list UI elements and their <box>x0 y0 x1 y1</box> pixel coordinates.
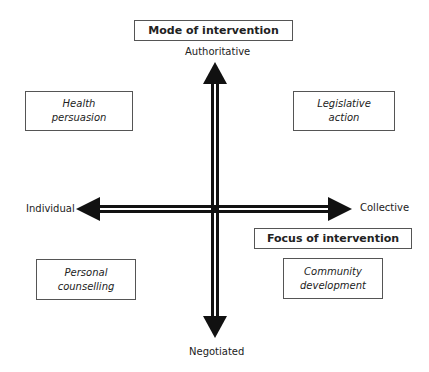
mode-title-text: Mode of intervention <box>148 24 278 37</box>
mode-of-intervention-title: Mode of intervention <box>134 20 293 41</box>
quadrant-line-1: Health <box>63 97 96 111</box>
arrow-right-icon <box>328 197 352 221</box>
axis-label-negotiated: Negotiated <box>189 346 244 357</box>
arrow-left-icon <box>76 197 100 221</box>
quadrant-line-2: action <box>329 111 360 125</box>
axis-label-authoritative: Authoritative <box>185 46 250 57</box>
quadrant-line-2: counselling <box>58 280 115 294</box>
quadrant-line-2: persuasion <box>52 111 107 125</box>
focus-title-text: Focus of intervention <box>267 232 399 245</box>
axis-label-individual: Individual <box>26 203 75 214</box>
arrow-up-icon <box>203 62 227 84</box>
quadrant-health-persuasion: Health persuasion <box>25 91 133 131</box>
quadrant-legislative-action: Legislative action <box>293 91 395 131</box>
axis-label-collective: Collective <box>360 202 409 213</box>
quadrant-personal-counselling: Personal counselling <box>36 259 136 300</box>
quadrant-line-2: development <box>300 279 366 293</box>
arrow-down-icon <box>203 316 227 338</box>
focus-of-intervention-title: Focus of intervention <box>254 228 412 249</box>
quadrant-community-development: Community development <box>283 258 383 299</box>
quadrant-line-1: Community <box>304 265 362 279</box>
quadrant-line-1: Legislative <box>317 97 371 111</box>
quadrant-line-1: Personal <box>65 266 108 280</box>
vertical-axis-arrow <box>203 62 227 338</box>
